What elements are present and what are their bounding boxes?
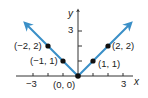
x-axis-label: x [133,76,140,87]
point-label-neg1-1: (−1, 1) [30,55,58,66]
chart-svg: y 3 x −3 3 (−2, 2) (−1, 1) (0, 0) (1, 1)… [0,0,148,98]
point-label-1-1: (1, 1) [98,58,120,69]
point-1-1 [90,58,95,63]
point-label-neg2-2: (−2, 2) [14,40,42,51]
point-label-2-2: (2, 2) [112,40,134,51]
y-tick-label-3: 3 [68,24,73,35]
point-label-origin: (0, 0) [53,79,75,90]
x-tick-label-3: 3 [121,78,126,89]
point-2-2 [105,43,110,48]
point-neg2-2 [45,43,50,48]
point-origin [75,73,81,79]
absolute-value-graph: y 3 x −3 3 (−2, 2) (−1, 1) (0, 0) (1, 1)… [0,0,148,98]
y-ticks [78,31,82,61]
x-tick-label-neg3: −3 [26,78,37,89]
point-neg1-1 [60,58,65,63]
y-axis-label: y [67,8,74,19]
